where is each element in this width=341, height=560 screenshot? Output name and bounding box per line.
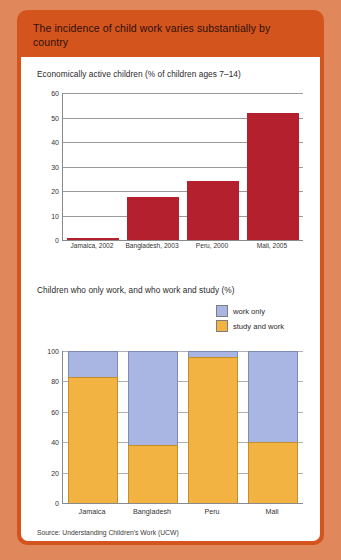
chart2-bars [63,351,303,503]
chart2-title: Children who only work, and who work and… [37,285,235,295]
x-axis-tick-label: Peru [183,507,241,516]
y-axis-tick-label: 0 [55,500,59,507]
chart1-x-axis-labels: Jamaica, 2002Bangladesh, 2003Peru, 2000M… [62,242,302,249]
bar-group [67,93,120,240]
source-note: Source: Understanding Children's Work (U… [37,529,179,536]
x-axis-tick-label: Mali, 2005 [243,242,301,249]
legend-swatch-study-and-work [216,320,228,332]
y-axis-tick-label: 40 [51,139,59,146]
chart1-title: Economically active children (% of child… [37,69,241,79]
chart1-bars [63,93,303,240]
bar-group [187,93,240,240]
legend-label-work-only: work only [233,307,265,316]
chart2-x-axis-labels: JamaicaBangladeshPeruMali [62,507,302,516]
bar [247,113,300,240]
legend-item-work-only: work only [216,305,284,317]
y-axis-tick-label: 30 [51,163,59,170]
bar-segment-study-and-work [128,445,178,503]
card-title: The incidence of child work varies subst… [33,21,308,49]
bar-group [128,351,178,503]
x-axis-tick-label: Mali [243,507,301,516]
chart-children-work-and-study: Children who only work, and who work and… [21,275,320,541]
bar-segment-study-and-work [68,377,118,503]
bar-group [248,351,298,503]
y-axis-tick-label: 80 [51,378,59,385]
bar-segment-work-only [248,351,298,442]
figure-card: The incidence of child work varies subst… [17,10,324,545]
bar [127,197,180,240]
x-axis-tick-label: Bangladesh, 2003 [123,242,181,249]
y-axis-tick-label: 0 [55,237,59,244]
figure-root: The incidence of child work varies subst… [0,0,341,560]
y-axis-tick-label: 40 [51,439,59,446]
y-axis-tick-label: 60 [51,408,59,415]
y-axis-tick-label: 50 [51,114,59,121]
x-axis-tick-label: Peru, 2000 [183,242,241,249]
chart2-legend: work only study and work [216,305,284,332]
bar-group [247,93,300,240]
chart1-plot-area: 0102030405060 [62,93,303,241]
legend-label-study-and-work: study and work [233,322,284,331]
y-axis-tick-label: 20 [51,188,59,195]
card-body: Economically active children (% of child… [21,57,320,541]
bar-segment-study-and-work [248,442,298,503]
chart2-plot-area: 020406080100 [62,351,303,504]
legend-item-study-and-work: study and work [216,320,284,332]
bar-segment-work-only [68,351,118,377]
x-axis-tick-label: Jamaica, 2002 [63,242,121,249]
legend-swatch-work-only [216,305,228,317]
bar-group [188,351,238,503]
x-axis-tick-label: Bangladesh [123,507,181,516]
y-axis-tick-label: 60 [51,90,59,97]
y-axis-tick-label: 100 [47,348,59,355]
bar-segment-study-and-work [188,357,238,503]
x-axis-tick-label: Jamaica [63,507,121,516]
y-axis-tick-label: 20 [51,469,59,476]
bar-group [68,351,118,503]
chart-economically-active-children: Economically active children (% of child… [21,57,320,275]
bar [67,238,120,240]
card-header: The incidence of child work varies subst… [17,10,324,57]
y-axis-tick-label: 10 [51,212,59,219]
bar-group [127,93,180,240]
bar [187,181,240,240]
bar-segment-work-only [128,351,178,445]
